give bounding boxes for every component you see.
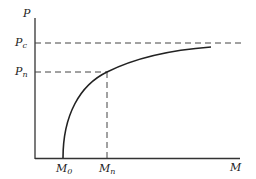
mn-label: Mn [99, 163, 115, 176]
pc-label-sub: c [22, 41, 26, 50]
y-axis-label-text: P [23, 7, 30, 20]
pn-label-sub: n [22, 70, 27, 79]
m0-label-base: M [56, 162, 67, 175]
x-axis-label: M [230, 162, 241, 173]
m0-label-sub: 0 [67, 167, 72, 176]
m0-label: M0 [56, 163, 72, 176]
diagram-canvas [0, 0, 256, 179]
mn-label-sub: n [110, 167, 115, 176]
mn-label-base: M [99, 162, 110, 175]
diagram: P Pc Pn M0 Mn M [0, 0, 256, 179]
curve [63, 47, 211, 158]
y-axis-label: P [23, 8, 30, 19]
pn-label: Pn [15, 66, 28, 79]
x-axis-label-text: M [230, 161, 241, 174]
pc-label: Pc [15, 37, 27, 50]
